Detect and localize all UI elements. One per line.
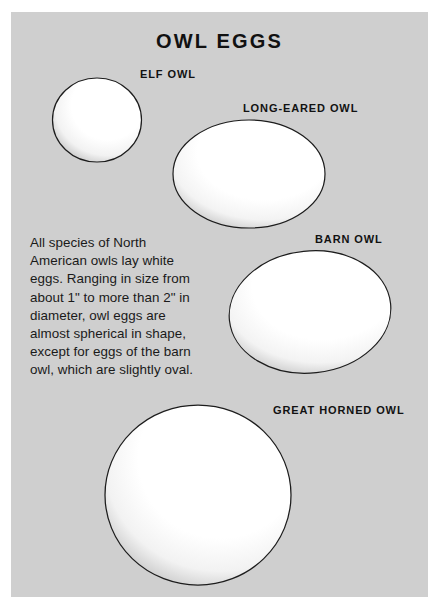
egg-label-great-horned-owl: GREAT HORNED OWL — [273, 404, 405, 416]
great-horned-owl-egg-svg — [103, 402, 293, 588]
egg-label-barn-owl: BARN OWL — [315, 233, 383, 245]
egg-label-elf-owl: ELF OWL — [140, 68, 196, 80]
egg-illustration-long-eared-owl — [171, 117, 327, 231]
page-title: OWL EGGS — [11, 30, 428, 53]
egg-illustration-elf-owl — [51, 74, 143, 166]
description-paragraph: All species of North American owls lay w… — [30, 234, 206, 380]
elf-owl-egg-svg — [51, 74, 143, 166]
illustration-page: OWL EGGS — [11, 12, 428, 597]
egg-illustration-great-horned-owl — [103, 402, 293, 588]
barn-owl-egg-svg — [227, 248, 393, 376]
egg-illustration-barn-owl — [227, 248, 393, 376]
egg-label-long-eared-owl: LONG-EARED OWL — [243, 102, 358, 114]
long-eared-owl-egg-svg — [171, 117, 327, 231]
